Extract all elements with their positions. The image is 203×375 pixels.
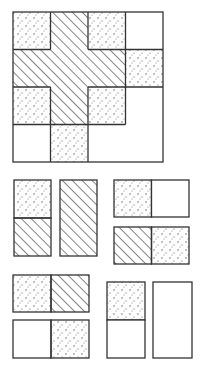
board-cell-blank [126,87,164,125]
diagram-canvas [0,0,203,375]
piece-vertical-hatched-hatched [60,180,97,256]
board-cell-dotted [51,125,89,163]
piece-half-dotted [51,320,89,358]
board-cell-hatched [51,50,89,88]
piece-half-dotted [14,180,51,218]
board-cell-dotted [13,87,51,125]
piece-half-blank [107,320,145,358]
piece-body-blank [153,282,192,358]
piece-half-hatched [14,218,51,256]
board-cell-hatched [51,12,89,50]
board-cell-blank [126,12,164,50]
board-cell-dotted [13,12,51,50]
piece-horizontal-blank-dotted [13,320,89,358]
piece-half-dotted [152,227,190,264]
piece-horizontal-dotted-hatched [13,275,89,312]
board-cell-blank [13,125,51,163]
board-cell-blank [126,125,164,163]
piece-half-blank [13,320,51,358]
piece-vertical-dotted-hatched [14,180,51,256]
piece-half-dotted [13,275,51,312]
piece-horizontal-hatched-dotted [114,227,189,264]
pieces [13,180,192,358]
board-cell-dotted [88,12,126,50]
piece-half-dotted [114,180,152,217]
board-cell-dotted [88,87,126,125]
board-cell-blank [88,125,126,163]
board [13,12,163,162]
board-cell-hatched [51,87,89,125]
board-cell-hatched [13,50,51,88]
piece-horizontal-dotted-blank [114,180,189,217]
piece-half-hatched [114,227,152,264]
board-cell-dotted [126,50,164,88]
piece-half-hatched [51,275,89,312]
board-cell-hatched [88,50,126,88]
piece-half-dotted [107,282,145,320]
piece-half-blank [152,180,190,217]
piece-vertical-blank-blank [153,282,192,358]
piece-body-hatched [60,180,97,256]
puzzle-diagram [0,0,203,375]
piece-vertical-dotted-blank [107,282,145,358]
